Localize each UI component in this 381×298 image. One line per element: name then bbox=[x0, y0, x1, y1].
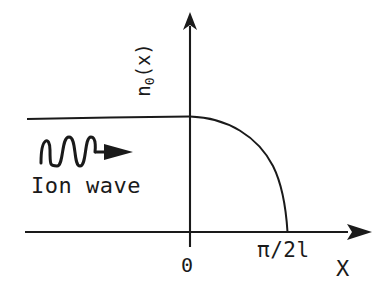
y-axis-label-subscript: 0 bbox=[142, 78, 157, 86]
density-plateau-line bbox=[27, 117, 190, 120]
density-falloff-curve bbox=[190, 117, 288, 233]
ion-wave-label: Ion wave bbox=[31, 175, 141, 197]
y-axis-label-base: n bbox=[132, 85, 154, 96]
y-axis-label-text: n0(x) bbox=[134, 43, 156, 97]
y-axis-label-argument: (x) bbox=[132, 43, 154, 77]
ion-wave-arrowhead-icon bbox=[104, 144, 133, 160]
figure-root: n0(x) 0 π/2l X Ion wave bbox=[0, 0, 381, 298]
origin-label: 0 bbox=[181, 255, 193, 275]
x-tick-label-pi-over-2l: π/2l bbox=[257, 240, 310, 261]
y-axis-label: n0(x) bbox=[134, 30, 156, 110]
x-axis-arrowhead-icon bbox=[347, 224, 372, 240]
x-axis-label: X bbox=[336, 258, 349, 280]
ion-wave-squiggle-icon bbox=[41, 137, 95, 166]
